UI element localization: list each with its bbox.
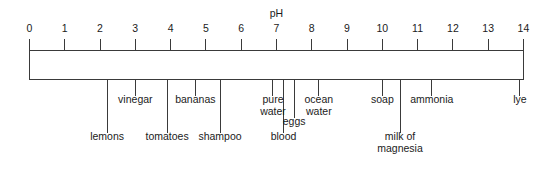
substance-label-soap: soap [371, 93, 394, 105]
axis-tick-label-4: 4 [168, 23, 174, 34]
substance-label-lye: lye [513, 93, 526, 105]
substance-label-line2: water [305, 105, 334, 117]
axis-tick-label-1: 1 [62, 23, 68, 34]
axis-tick-label-12: 12 [447, 23, 459, 34]
substance-label-pure-water: purewater [260, 93, 286, 117]
substance-label-line2: magnesia [377, 142, 423, 154]
substance-label-line1: bananas [175, 93, 215, 105]
substance-label-line1: blood [271, 130, 297, 142]
substance-label-shampoo: shampoo [198, 130, 241, 142]
substance-label-bananas: bananas [175, 93, 215, 105]
substance-label-blood: blood [271, 130, 297, 142]
ph-scale-diagram: 01234567891011121314 pH lemonsvinegartom… [0, 0, 560, 169]
axis-tick-label-8: 8 [309, 23, 315, 34]
axis-tick-label-7: 7 [274, 23, 280, 34]
substance-label-line1: tomatoes [146, 130, 189, 142]
substance-label-line1: soap [371, 93, 394, 105]
axis-tick-label-5: 5 [203, 23, 209, 34]
axis-tick-label-11: 11 [412, 23, 423, 34]
axis-tick-label-0: 0 [27, 23, 33, 34]
substance-label-ammonia: ammonia [410, 93, 453, 105]
substance-label-line1: milk of [385, 130, 415, 142]
axis-tick-label-6: 6 [238, 23, 244, 34]
substance-label-tomatoes: tomatoes [146, 130, 189, 142]
substance-label-line1: shampoo [198, 130, 241, 142]
substance-label-lemons: lemons [90, 130, 124, 142]
ph-scale-graphic [0, 0, 560, 169]
substance-label-line1: ocean [305, 93, 334, 105]
substance-label-eggs: eggs [283, 115, 306, 127]
axis-tick-label-10: 10 [376, 23, 388, 34]
axis-tick-label-2: 2 [97, 23, 103, 34]
substance-label-line1: lye [513, 93, 526, 105]
substance-label-line1: lemons [90, 130, 124, 142]
ph-axis-title: pH [270, 8, 283, 19]
substance-label-vinegar: vinegar [118, 93, 152, 105]
substance-label-ocean-water: oceanwater [305, 93, 334, 117]
axis-tick-label-13: 13 [482, 23, 494, 34]
axis-tick-label-9: 9 [344, 23, 350, 34]
substance-label-line1: pure [262, 93, 283, 105]
substance-label-line1: ammonia [410, 93, 453, 105]
substance-label-line1: vinegar [118, 93, 152, 105]
substance-label-milk-of-magnesia: milk ofmagnesia [377, 130, 423, 154]
scale-bar [30, 51, 524, 80]
axis-tick-label-3: 3 [132, 23, 138, 34]
substance-label-line1: eggs [283, 115, 306, 127]
axis-tick-label-14: 14 [518, 23, 530, 34]
